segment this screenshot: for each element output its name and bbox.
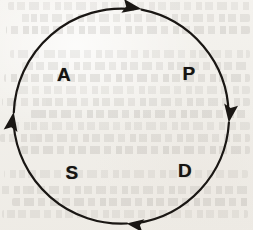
cycle-label-study: S (66, 163, 79, 182)
arrowhead-left-icon (4, 111, 21, 132)
pdsa-cycle-diagram: A P S D (0, 0, 253, 230)
arrowhead-right-icon (221, 104, 238, 124)
cycle-label-do: D (178, 161, 192, 180)
cycle-arrow-graphic (0, 0, 253, 230)
cycle-label-plan: P (183, 64, 196, 83)
cycle-arc-act-to-plan (14, 9, 134, 113)
cycle-label-act: A (57, 65, 71, 84)
